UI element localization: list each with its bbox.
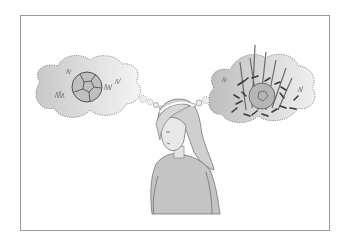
soccer-ball-icon [249,83,275,109]
girl-figure [151,99,220,214]
soccer-ball-icon [72,72,102,102]
girl-thought-illustration [0,0,350,244]
left-thought-cloud [36,55,163,117]
right-thought-cloud [186,45,315,123]
